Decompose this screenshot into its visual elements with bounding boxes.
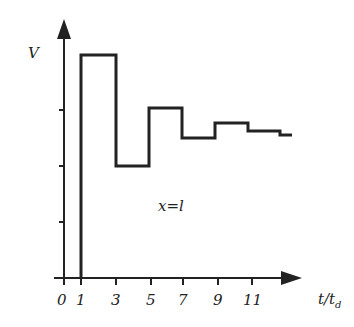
step-response-chart: V 0 1 3 5 7 9 11 t/td x=l xyxy=(0,0,354,327)
x-axis xyxy=(54,271,302,285)
y-axis-label: V xyxy=(28,44,41,62)
annotation-position: x=l xyxy=(158,197,184,215)
x-tick-label-11: 11 xyxy=(243,291,262,309)
x-tick-label-9: 9 xyxy=(213,291,223,309)
y-axis-arrow-icon xyxy=(57,19,71,39)
x-axis-arrow-icon xyxy=(281,271,302,285)
y-axis xyxy=(57,19,71,279)
step-series-line xyxy=(81,55,292,278)
x-axis-label-sub: d xyxy=(335,299,341,310)
x-axis-label-main: t/t xyxy=(318,290,336,308)
x-tick-label-1: 1 xyxy=(76,291,86,309)
x-tick-label-7: 7 xyxy=(178,291,188,309)
x-tick-label-5: 5 xyxy=(146,291,156,309)
x-tick-label-3: 3 xyxy=(111,291,121,309)
x-axis-label: t/td xyxy=(318,290,342,310)
x-tick-label-0: 0 xyxy=(57,291,67,309)
